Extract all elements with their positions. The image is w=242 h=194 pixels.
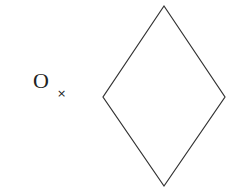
rhombus-figure [0, 0, 242, 194]
rhombus-shape [103, 6, 225, 186]
diagram-canvas: O × [0, 0, 242, 194]
